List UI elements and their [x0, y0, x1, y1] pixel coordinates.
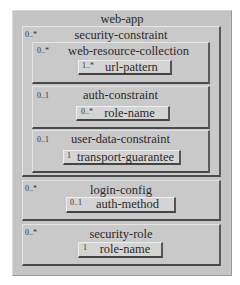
- web-resource-collection-multiplicity: 0..*: [37, 46, 49, 55]
- transport-guarantee-label: transport-guarantee: [72, 151, 179, 163]
- auth-constraint-title: auth-constraint: [33, 88, 208, 102]
- login-config-title: login-config: [23, 183, 219, 197]
- transport-guarantee-multiplicity: 1: [67, 151, 71, 160]
- web-app-title: web-app: [13, 12, 231, 26]
- transport-guarantee-box: 1 transport-guarantee: [63, 150, 181, 165]
- web-resource-collection-title: web-resource-collection: [49, 44, 208, 58]
- security-role-title: security-role: [23, 227, 219, 241]
- url-pattern-box: 1..* url-pattern: [78, 60, 172, 75]
- security-role-name-multiplicity: 1: [83, 243, 87, 252]
- security-role-name-box: 1 role-name: [78, 242, 163, 258]
- auth-method-label: auth-method: [81, 198, 174, 211]
- user-data-constraint-title: user-data-constraint: [33, 132, 208, 146]
- url-pattern-label: url-pattern: [93, 61, 170, 73]
- auth-role-name-label: role-name: [91, 107, 168, 119]
- auth-method-box: 0..1 auth-method: [66, 197, 176, 213]
- auth-role-name-box: 0..* role-name: [76, 106, 170, 121]
- security-role-name-label: role-name: [89, 243, 161, 256]
- security-constraint-title: security-constraint: [23, 28, 219, 42]
